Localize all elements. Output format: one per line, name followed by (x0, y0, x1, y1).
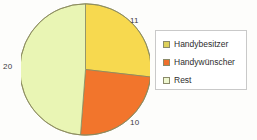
legend-item-handybesitzer[interactable]: Handybesitzer (163, 36, 246, 53)
legend-item-handywuenscher[interactable]: Handywünscher (163, 54, 246, 71)
data-label-rest: 20 (3, 62, 12, 71)
legend-item-label: Rest (174, 76, 191, 85)
legend-item-label: Handybesitzer (174, 40, 228, 49)
pie-slice-handywuenscher[interactable] (80, 70, 150, 136)
legend-swatch-icon (163, 77, 170, 84)
legend-item-rest[interactable]: Rest (163, 72, 246, 89)
chart-legend: Handybesitzer Handywünscher Rest (155, 30, 247, 90)
legend-swatch-icon (163, 41, 170, 48)
legend-swatch-icon (163, 59, 170, 66)
pie-slice-handybesitzer[interactable] (86, 4, 151, 77)
pie-slice-rest[interactable] (21, 4, 86, 135)
data-label-handywuenscher: 10 (130, 118, 139, 127)
data-label-handybesitzer: 11 (130, 16, 139, 25)
legend-item-label: Handywünscher (174, 58, 235, 67)
chart-canvas: 11 10 20 Handybesitzer Handywünscher Res… (0, 0, 257, 140)
